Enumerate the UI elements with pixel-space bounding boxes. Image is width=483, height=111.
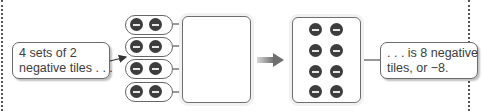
negative-tile-icon: [130, 18, 143, 31]
negative-tile-icon: [309, 23, 322, 36]
right-callout-line-1: . . . is 8 negative: [387, 46, 471, 61]
negative-tile-icon: [130, 85, 143, 98]
negative-tile-icon: [309, 85, 322, 98]
tile-group-3: [125, 59, 173, 79]
negative-tile-icon: [309, 44, 322, 57]
result-box: [292, 17, 361, 103]
negative-tile-icon: [330, 85, 343, 98]
negative-tile-icon: [149, 40, 162, 53]
tile-group-1: [125, 15, 173, 35]
negative-tile-icon: [149, 18, 162, 31]
negative-tile-icon: [149, 85, 162, 98]
right-callout: . . . is 8 negative tiles, or −8.: [380, 42, 478, 79]
negative-tile-icon: [330, 23, 343, 36]
left-callout-line-2: negative tiles . . .: [19, 61, 103, 76]
right-callout-line-2: tiles, or −8.: [387, 61, 471, 76]
tile-group-4: [125, 82, 173, 102]
negative-tile-icon: [330, 65, 343, 78]
negative-tile-icon: [149, 62, 162, 75]
negative-tile-icon: [130, 40, 143, 53]
left-callout-line-1: 4 sets of 2: [19, 46, 103, 61]
transform-arrow-icon: [257, 53, 284, 67]
collecting-box: [182, 16, 251, 103]
tile-group-2: [125, 37, 173, 57]
negative-tile-icon: [330, 44, 343, 57]
negative-tile-icon: [309, 65, 322, 78]
negative-tile-icon: [130, 62, 143, 75]
left-callout: 4 sets of 2 negative tiles . . .: [12, 42, 110, 79]
